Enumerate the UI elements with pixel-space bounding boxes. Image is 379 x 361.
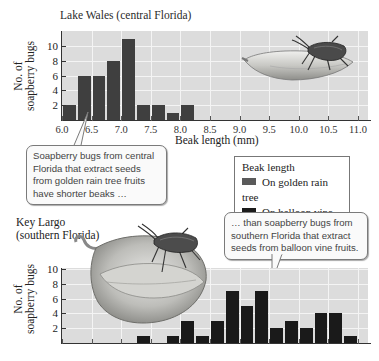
x-tick-mark bbox=[210, 339, 211, 344]
histogram-bar bbox=[196, 336, 209, 343]
y-tick-label: 10 bbox=[42, 41, 58, 52]
y-tick-mark bbox=[61, 76, 66, 77]
x-tick-mark bbox=[62, 339, 63, 344]
top-y-axis-label: No. of soapberry bugs bbox=[12, 28, 36, 124]
y-tick-label: 2 bbox=[42, 100, 58, 111]
histogram-bar bbox=[137, 336, 150, 343]
y-tick-mark bbox=[61, 105, 66, 106]
x-tick-mark bbox=[358, 116, 359, 121]
legend-title: Beak length bbox=[242, 160, 342, 175]
histogram-bar bbox=[241, 306, 254, 343]
bottom-x-axis bbox=[61, 343, 371, 344]
x-tick-label: 7.5 bbox=[136, 124, 166, 135]
x-tick-mark bbox=[210, 116, 211, 121]
histogram-bar bbox=[255, 291, 268, 343]
x-tick-mark bbox=[240, 116, 241, 121]
y-tick-label: 10 bbox=[42, 264, 58, 275]
y-tick-label: 4 bbox=[42, 308, 58, 319]
bottom-y-axis-label: No. of soapberry bugs bbox=[12, 251, 36, 347]
y-tick-mark bbox=[61, 46, 66, 47]
histogram-bar bbox=[300, 328, 313, 343]
top-x-axis bbox=[61, 120, 371, 121]
bottom-y-axis bbox=[61, 268, 62, 344]
y-tick-mark bbox=[61, 61, 66, 62]
x-tick-mark bbox=[121, 116, 122, 121]
histogram-bar bbox=[93, 76, 106, 120]
y-tick-label: 8 bbox=[42, 56, 58, 67]
x-tick-mark bbox=[358, 339, 359, 344]
x-tick-mark bbox=[151, 339, 152, 344]
x-tick-mark bbox=[299, 339, 300, 344]
x-tick-mark bbox=[151, 116, 152, 121]
x-tick-mark bbox=[328, 116, 329, 121]
x-tick-label: 11.0 bbox=[343, 124, 373, 135]
x-tick-mark bbox=[62, 116, 63, 121]
top-x-axis-label: Beak length (mm) bbox=[175, 134, 259, 146]
histogram-bar bbox=[285, 321, 298, 343]
x-tick-label: 10.0 bbox=[284, 124, 314, 135]
histogram-bar bbox=[181, 105, 194, 120]
x-tick-mark bbox=[180, 339, 181, 344]
histogram-bar bbox=[226, 291, 239, 343]
y-tick-mark bbox=[61, 90, 66, 91]
y-tick-label: 2 bbox=[42, 323, 58, 334]
x-tick-mark bbox=[121, 339, 122, 344]
vertical-gridline bbox=[358, 268, 359, 343]
y-tick-label: 6 bbox=[42, 71, 58, 82]
histogram-bar bbox=[329, 313, 342, 343]
x-tick-mark bbox=[180, 116, 181, 121]
bug-on-golden-rain-tree-fruit-icon bbox=[240, 30, 365, 90]
right-callout: … than soapberry bugs from southern Flor… bbox=[224, 212, 368, 260]
y-tick-label: 6 bbox=[42, 294, 58, 305]
histogram-bar bbox=[270, 328, 283, 343]
histogram-bar bbox=[344, 336, 357, 343]
histogram-bar bbox=[167, 113, 180, 120]
x-tick-mark bbox=[299, 116, 300, 121]
x-tick-mark bbox=[328, 339, 329, 344]
y-tick-label: 4 bbox=[42, 85, 58, 96]
x-tick-mark bbox=[269, 116, 270, 121]
x-tick-label: 7.0 bbox=[106, 124, 136, 135]
histogram-bar bbox=[122, 39, 135, 120]
x-tick-mark bbox=[240, 339, 241, 344]
histogram-bar bbox=[167, 336, 180, 343]
histogram-bar bbox=[107, 61, 120, 120]
histogram-bar bbox=[315, 313, 328, 343]
bug-on-balloon-vine-fruit-icon bbox=[66, 222, 216, 332]
legend-item-golden-rain-tree: On golden rain tree bbox=[242, 175, 342, 205]
histogram-bar bbox=[152, 105, 165, 120]
golden-rain-tree-swatch-icon bbox=[242, 178, 256, 185]
x-tick-mark bbox=[92, 339, 93, 344]
histogram-bar bbox=[137, 105, 150, 120]
x-tick-mark bbox=[269, 339, 270, 344]
y-tick-label: 8 bbox=[42, 279, 58, 290]
top-chart-title: Lake Wales (central Florida) bbox=[60, 9, 191, 21]
x-tick-label: 10.5 bbox=[313, 124, 343, 135]
left-callout: Soapberry bugs from central Florida that… bbox=[26, 145, 167, 205]
